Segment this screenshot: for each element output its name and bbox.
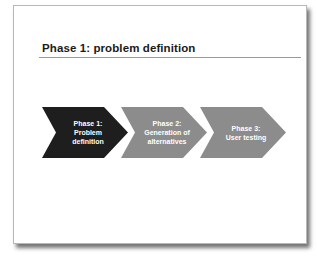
phase-2-line3: alternatives (144, 137, 190, 146)
phase-flow: Phase 1: Problem definition Phase 2: Gen… (14, 6, 306, 243)
phase-2-label: Phase 2: Generation of alternatives (135, 107, 199, 158)
phase-1-line3: definition (72, 137, 104, 146)
phase-3-label: Phase 3: User testing (214, 107, 278, 158)
phase-2-line2: Generation of (144, 128, 190, 137)
phase-3-chevron: Phase 3: User testing (200, 107, 286, 158)
phase-2-line1: Phase 2: (144, 119, 190, 128)
phase-1-label: Phase 1: Problem definition (56, 107, 120, 158)
phase-1-chevron: Phase 1: Problem definition (42, 107, 128, 158)
phase-3-line2: User testing (226, 133, 266, 142)
phase-1-line2: Problem (72, 128, 104, 137)
phase-2-chevron: Phase 2: Generation of alternatives (121, 107, 207, 158)
slide: Phase 1: problem definition Phase 1: Pro… (13, 5, 307, 244)
phase-1-line1: Phase 1: (72, 119, 104, 128)
phase-3-line1: Phase 3: (226, 124, 266, 133)
